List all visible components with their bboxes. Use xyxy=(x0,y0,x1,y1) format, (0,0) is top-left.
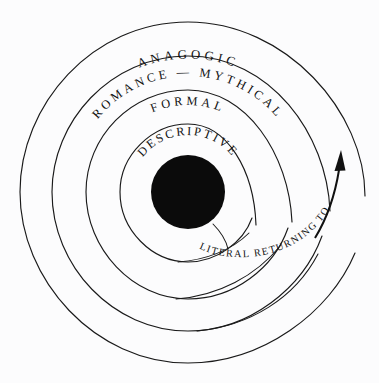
ring-label-romance-mythical-text: ROMANCE — MYTHICAL xyxy=(89,65,287,121)
ring-label-formal: FORMAL xyxy=(148,94,227,116)
ring-label-descriptive: DESCRIPTIVE xyxy=(135,124,242,159)
spiral-diagram: ANAGOGIC ROMANCE — MYTHICAL FORMAL DESCR… xyxy=(0,0,379,383)
ring-label-descriptive-text: DESCRIPTIVE xyxy=(135,124,242,159)
spiral-diagram-canvas: ANAGOGIC ROMANCE — MYTHICAL FORMAL DESCR… xyxy=(0,0,379,383)
ring-label-romance-mythical: ROMANCE — MYTHICAL xyxy=(89,65,287,121)
spiral-connectors xyxy=(176,233,318,331)
ring-label-formal-text: FORMAL xyxy=(148,94,227,116)
core-disc xyxy=(151,155,225,229)
